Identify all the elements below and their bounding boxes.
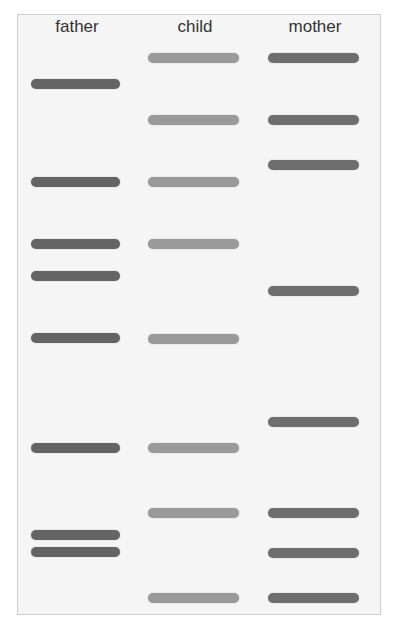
- band-child-5: [148, 334, 239, 344]
- band-child-3: [148, 177, 239, 187]
- band-father-3: [31, 239, 120, 249]
- band-mother-5: [268, 417, 359, 427]
- lane-label-child: child: [140, 16, 250, 38]
- band-child-2: [148, 115, 239, 125]
- band-father-1: [31, 79, 120, 89]
- band-mother-8: [268, 593, 359, 603]
- band-mother-6: [268, 508, 359, 518]
- band-father-2: [31, 177, 120, 187]
- band-child-7: [148, 508, 239, 518]
- lane-label-father: father: [22, 16, 132, 38]
- gel-frame: [17, 14, 381, 615]
- band-child-8: [148, 593, 239, 603]
- band-mother-2: [268, 115, 359, 125]
- band-father-6: [31, 443, 120, 453]
- band-child-6: [148, 443, 239, 453]
- band-mother-4: [268, 286, 359, 296]
- band-father-8: [31, 547, 120, 557]
- band-mother-1: [268, 53, 359, 63]
- band-mother-3: [268, 160, 359, 170]
- lane-label-mother: mother: [260, 16, 370, 38]
- band-father-4: [31, 271, 120, 281]
- band-mother-7: [268, 548, 359, 558]
- band-father-7: [31, 530, 120, 540]
- band-child-1: [148, 53, 239, 63]
- band-father-5: [31, 333, 120, 343]
- band-child-4: [148, 239, 239, 249]
